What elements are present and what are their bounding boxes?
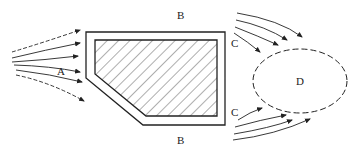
incoming-flow-arrows — [12, 30, 84, 101]
building-hatched-core — [95, 40, 217, 116]
label-d: D — [296, 75, 304, 87]
building — [86, 32, 225, 125]
label-b-top: B — [177, 9, 184, 21]
label-a: A — [57, 65, 65, 77]
label-c-top: C — [231, 37, 238, 49]
label-b-bottom: B — [177, 134, 184, 146]
label-c-bottom: C — [231, 106, 238, 118]
top-flow-arrows — [234, 13, 302, 52]
flow-diagram: A B B C C D — [0, 0, 356, 156]
